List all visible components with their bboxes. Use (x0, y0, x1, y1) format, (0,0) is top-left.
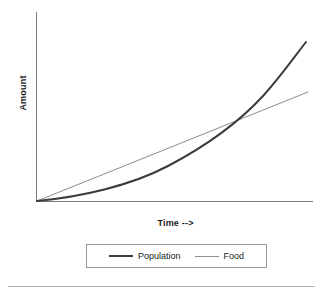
legend-label-food: Food (224, 251, 245, 261)
series-line-food (37, 92, 308, 201)
y-axis-label: Amount (18, 58, 28, 128)
legend-entry-population: Population (109, 251, 181, 261)
chart-legend: Population Food (86, 244, 267, 268)
x-axis-label: Time --> (37, 218, 314, 228)
legend-swatch-population-icon (109, 255, 133, 257)
legend-entry-food: Food (195, 251, 245, 261)
series-line-population (37, 42, 306, 201)
chart-figure: Amount Time --> Population Food (0, 0, 330, 295)
legend-swatch-food-icon (195, 256, 219, 257)
bottom-divider (8, 286, 315, 287)
legend-label-population: Population (138, 251, 181, 261)
